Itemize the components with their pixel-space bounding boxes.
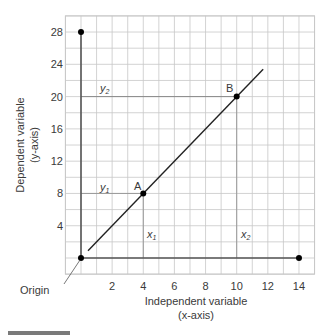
x-tick-label: 4 <box>140 280 146 292</box>
data-point <box>296 255 302 261</box>
tick-labels: 2468101214481216202428 <box>51 26 305 292</box>
y-axis-title: Dependent variable <box>14 97 26 192</box>
y-tick-label: 12 <box>51 155 63 167</box>
point-b-label: B <box>226 82 233 94</box>
y2-label: y2 <box>99 82 110 95</box>
x1-label: x1 <box>146 228 157 241</box>
data-point <box>234 94 240 100</box>
y-tick-label: 24 <box>51 58 63 70</box>
y-tick-label: 8 <box>57 187 63 199</box>
x2-label: x2 <box>240 228 251 241</box>
x-axis-subtitle: (x-axis) <box>178 309 214 321</box>
y1-label: y1 <box>99 181 110 194</box>
data-point <box>78 255 84 261</box>
y-tick-label: 28 <box>51 26 63 38</box>
origin-pointer <box>64 260 80 284</box>
x-tick-label: 6 <box>171 280 177 292</box>
y-tick-label: 4 <box>57 220 63 232</box>
y-axis-subtitle: (y-axis) <box>28 127 40 163</box>
y-tick-label: 20 <box>51 91 63 103</box>
x-tick-label: 14 <box>293 280 305 292</box>
x-tick-label: 12 <box>262 280 274 292</box>
point-a-label: A <box>134 180 142 192</box>
data-point <box>78 29 84 35</box>
x-tick-label: 10 <box>231 280 243 292</box>
y-tick-label: 16 <box>51 123 63 135</box>
origin-label: Origin <box>20 284 49 296</box>
x-axis-title: Independent variable <box>145 295 248 307</box>
x-tick-label: 2 <box>109 280 115 292</box>
chart: 2468101214481216202428 Origin A B y1 y2 … <box>0 0 328 335</box>
footer-bar <box>8 331 70 335</box>
x-tick-label: 8 <box>202 280 208 292</box>
